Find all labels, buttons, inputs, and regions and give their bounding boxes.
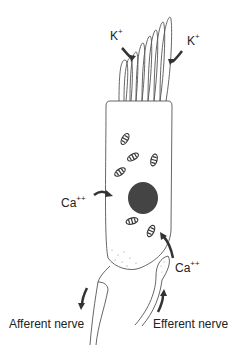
ca-right-sup: ++	[190, 259, 199, 268]
efferent-arrow	[158, 295, 163, 312]
efferent-nerve-label: Efferent nerve	[153, 318, 228, 330]
ca-right-base: Ca	[175, 261, 190, 275]
ca-label-left: Ca++	[61, 197, 86, 209]
synaptic-vesicles	[111, 249, 136, 266]
ca-left-sup: ++	[76, 194, 85, 203]
k-right-sup: +	[195, 32, 200, 41]
stereocilia-bundle	[119, 17, 172, 101]
nucleus	[128, 182, 158, 214]
k-right-base: K	[187, 34, 195, 48]
afferent-nerve	[90, 266, 110, 345]
ca-left-base: Ca	[61, 196, 76, 210]
hair-cell-diagram	[0, 0, 242, 347]
k-plus-label-right: K+	[187, 35, 200, 47]
ca-label-right: Ca++	[175, 262, 200, 274]
k-plus-label-left: K+	[110, 30, 123, 42]
efferent-vesicles	[161, 262, 165, 273]
k-left-sup: +	[118, 27, 123, 36]
k-left-base: K	[110, 29, 118, 43]
afferent-nerve-label: Afferent nerve	[9, 318, 84, 330]
afferent-arrow	[82, 288, 87, 305]
ca-right-arrow	[163, 236, 173, 258]
